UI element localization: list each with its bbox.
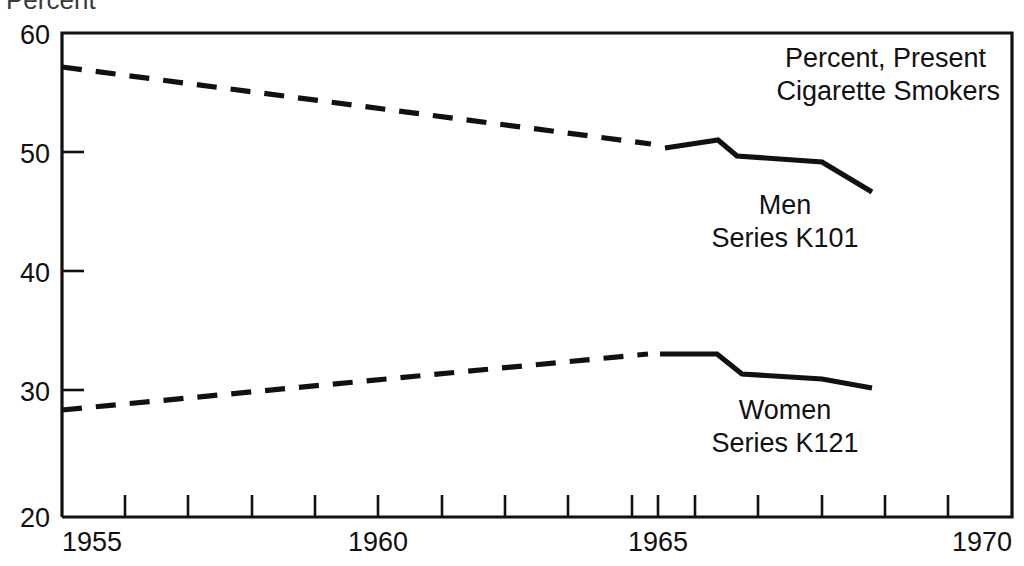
women-series-annotation: Women Series K121	[711, 395, 858, 458]
series-women-solid-line	[660, 354, 872, 388]
y-axis-label-50: 50	[20, 139, 50, 169]
x-axis-labels: 1955 1960 1965 1970	[62, 527, 1012, 557]
header-annotation-line2: Cigarette Smokers	[776, 76, 1000, 106]
women-annotation-line2: Series K121	[711, 428, 858, 458]
y-axis-label-40: 40	[20, 258, 50, 288]
header-annotation-line1: Percent, Present	[785, 43, 987, 73]
y-axis-label-60: 60	[20, 20, 50, 50]
x-axis-label-1970: 1970	[952, 527, 1012, 557]
series-men-dashed-line	[62, 67, 651, 144]
y-axis-labels: 60 50 40 30 20	[20, 20, 50, 533]
women-annotation-line1: Women	[739, 395, 832, 425]
clipped-top-text: Percent	[6, 0, 96, 15]
chart-page: Percent 60 50 40 30 20	[0, 0, 1024, 566]
x-axis-label-1965: 1965	[628, 527, 688, 557]
men-annotation-line1: Men	[759, 190, 812, 220]
x-axis-label-1960: 1960	[348, 527, 408, 557]
men-annotation-line2: Series K101	[711, 223, 858, 253]
y-axis-label-20: 20	[20, 503, 50, 533]
y-axis-label-30: 30	[20, 377, 50, 407]
x-axis-ticks	[125, 495, 948, 517]
header-annotation: Percent, Present Cigarette Smokers	[776, 43, 1000, 106]
series-men-solid-line	[665, 140, 872, 192]
men-series-annotation: Men Series K101	[711, 190, 858, 253]
series-women-dashed-line	[62, 354, 648, 410]
x-axis-label-1955: 1955	[62, 527, 122, 557]
line-chart: Percent 60 50 40 30 20	[0, 0, 1024, 566]
y-axis-ticks	[62, 152, 84, 390]
